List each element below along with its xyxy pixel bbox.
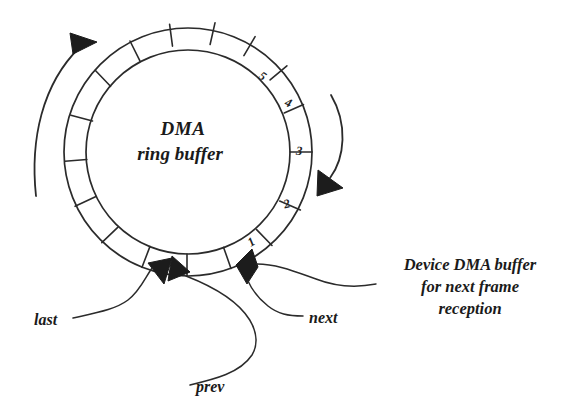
right-rotation-arrow — [317, 95, 343, 196]
cell-divider — [130, 41, 140, 61]
next-pointer-arrowhead — [236, 249, 258, 284]
callout-labels: last prev next — [34, 309, 338, 396]
dma-ring-buffer-figure: 5 4 3 2 1 DMA ring buffer — [0, 0, 561, 418]
cell-divider — [75, 197, 96, 207]
device-dma-buffer-note: Device DMA buffer for next frame recepti… — [403, 255, 537, 318]
ring-cell-number-3: 3 — [294, 144, 302, 158]
ring-cell-number-4: 4 — [282, 95, 294, 111]
center-caption-line-dma: DMA — [160, 118, 206, 139]
ring-pointer-arrowheads — [148, 249, 258, 284]
diagram-canvas: 5 4 3 2 1 DMA ring buffer — [0, 0, 561, 418]
callout-label-prev: prev — [194, 378, 225, 396]
device-buffer-note-line1: Device DMA buffer — [403, 255, 537, 274]
device-buffer-leader-line — [257, 264, 376, 286]
ring-center-caption: DMA ring buffer — [137, 118, 223, 164]
cell-divider — [210, 23, 215, 45]
cell-divider — [170, 24, 173, 46]
device-buffer-note-line3: reception — [438, 299, 501, 318]
ring-cell-number-2: 2 — [281, 196, 291, 211]
prev-leader-line — [186, 276, 256, 385]
next-leader-line — [248, 281, 303, 316]
ring-cell-number-1: 1 — [245, 234, 258, 249]
callout-label-next: next — [309, 309, 338, 326]
cell-divider — [257, 230, 272, 246]
last-leader-line — [73, 268, 152, 318]
left-rotation-arc — [35, 47, 80, 196]
cell-divider — [71, 115, 93, 121]
left-rotation-arrowhead — [70, 33, 97, 54]
cell-divider — [65, 160, 87, 162]
ring-cell-number-5: 5 — [256, 69, 269, 84]
cell-divider — [95, 70, 110, 86]
cell-divider — [102, 227, 118, 243]
right-rotation-arrowhead — [317, 170, 343, 196]
device-buffer-note-line2: for next frame — [421, 277, 519, 296]
callout-label-last: last — [34, 311, 58, 328]
right-rotation-arc — [330, 95, 343, 178]
center-caption-line-ring-buffer: ring buffer — [137, 143, 223, 164]
cell-divider — [224, 247, 231, 268]
